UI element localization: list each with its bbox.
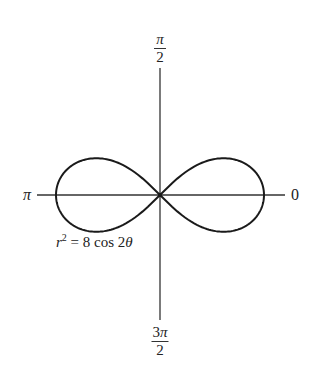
label-bottom-numerator: 3π (151, 326, 168, 340)
label-top-numerator: π (155, 33, 165, 47)
label-pi-over-2: π 2 (154, 33, 166, 64)
label-3pi-over-2: 3π 2 (151, 326, 168, 357)
label-bottom-denominator: 2 (156, 344, 164, 357)
origin-point (158, 193, 162, 197)
label-zero: 0 (291, 187, 299, 203)
label-top-denominator: 2 (156, 51, 164, 64)
equation-label: r2 = 8 cos 2θ (56, 234, 133, 250)
label-pi: π (23, 187, 31, 203)
